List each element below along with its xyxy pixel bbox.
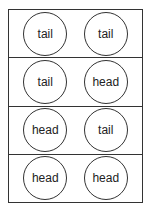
coin-2: tail <box>84 12 128 56</box>
outcome-row-4: head head <box>9 155 142 202</box>
coin-1: head <box>23 108 67 152</box>
coin-2: head <box>84 60 128 104</box>
coin-1: head <box>23 156 67 200</box>
outcome-table: tail tail tail head head tail head head <box>8 9 143 203</box>
outcome-row-2: tail head <box>9 58 142 106</box>
coin-1: tail <box>23 60 67 104</box>
outcome-row-3: head tail <box>9 107 142 155</box>
outcome-row-1: tail tail <box>9 10 142 58</box>
coin-2: head <box>84 156 128 200</box>
coin-2: tail <box>84 108 128 152</box>
coin-1: tail <box>23 12 67 56</box>
